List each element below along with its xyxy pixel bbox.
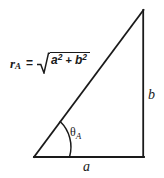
radicand-expression: a2 + b2	[50, 52, 90, 74]
radical-sign-icon	[37, 52, 50, 74]
radius-formula: rA = a2 + b2	[10, 52, 90, 74]
radicand-term-b-exponent: 2	[82, 53, 87, 62]
radicand-term-a: a	[51, 54, 58, 66]
triangle-figure: rA = a2 + b2 θA a b	[0, 0, 164, 178]
radicand-term-a-exponent: 2	[58, 53, 63, 62]
angle-label-symbol: θ	[70, 125, 76, 139]
side-label-b: b	[148, 88, 155, 102]
triangle-hypotenuse-line	[34, 10, 144, 157]
formula-variable-subscript: A	[15, 62, 21, 71]
radicand-plus-operator: +	[66, 55, 72, 66]
angle-label: θA	[70, 126, 81, 138]
radical-group: a2 + b2	[37, 52, 90, 74]
angle-label-subscript: A	[76, 131, 82, 141]
triangle-drawing	[0, 0, 164, 178]
side-label-a: a	[83, 160, 90, 174]
formula-equals-sign: =	[26, 57, 33, 69]
